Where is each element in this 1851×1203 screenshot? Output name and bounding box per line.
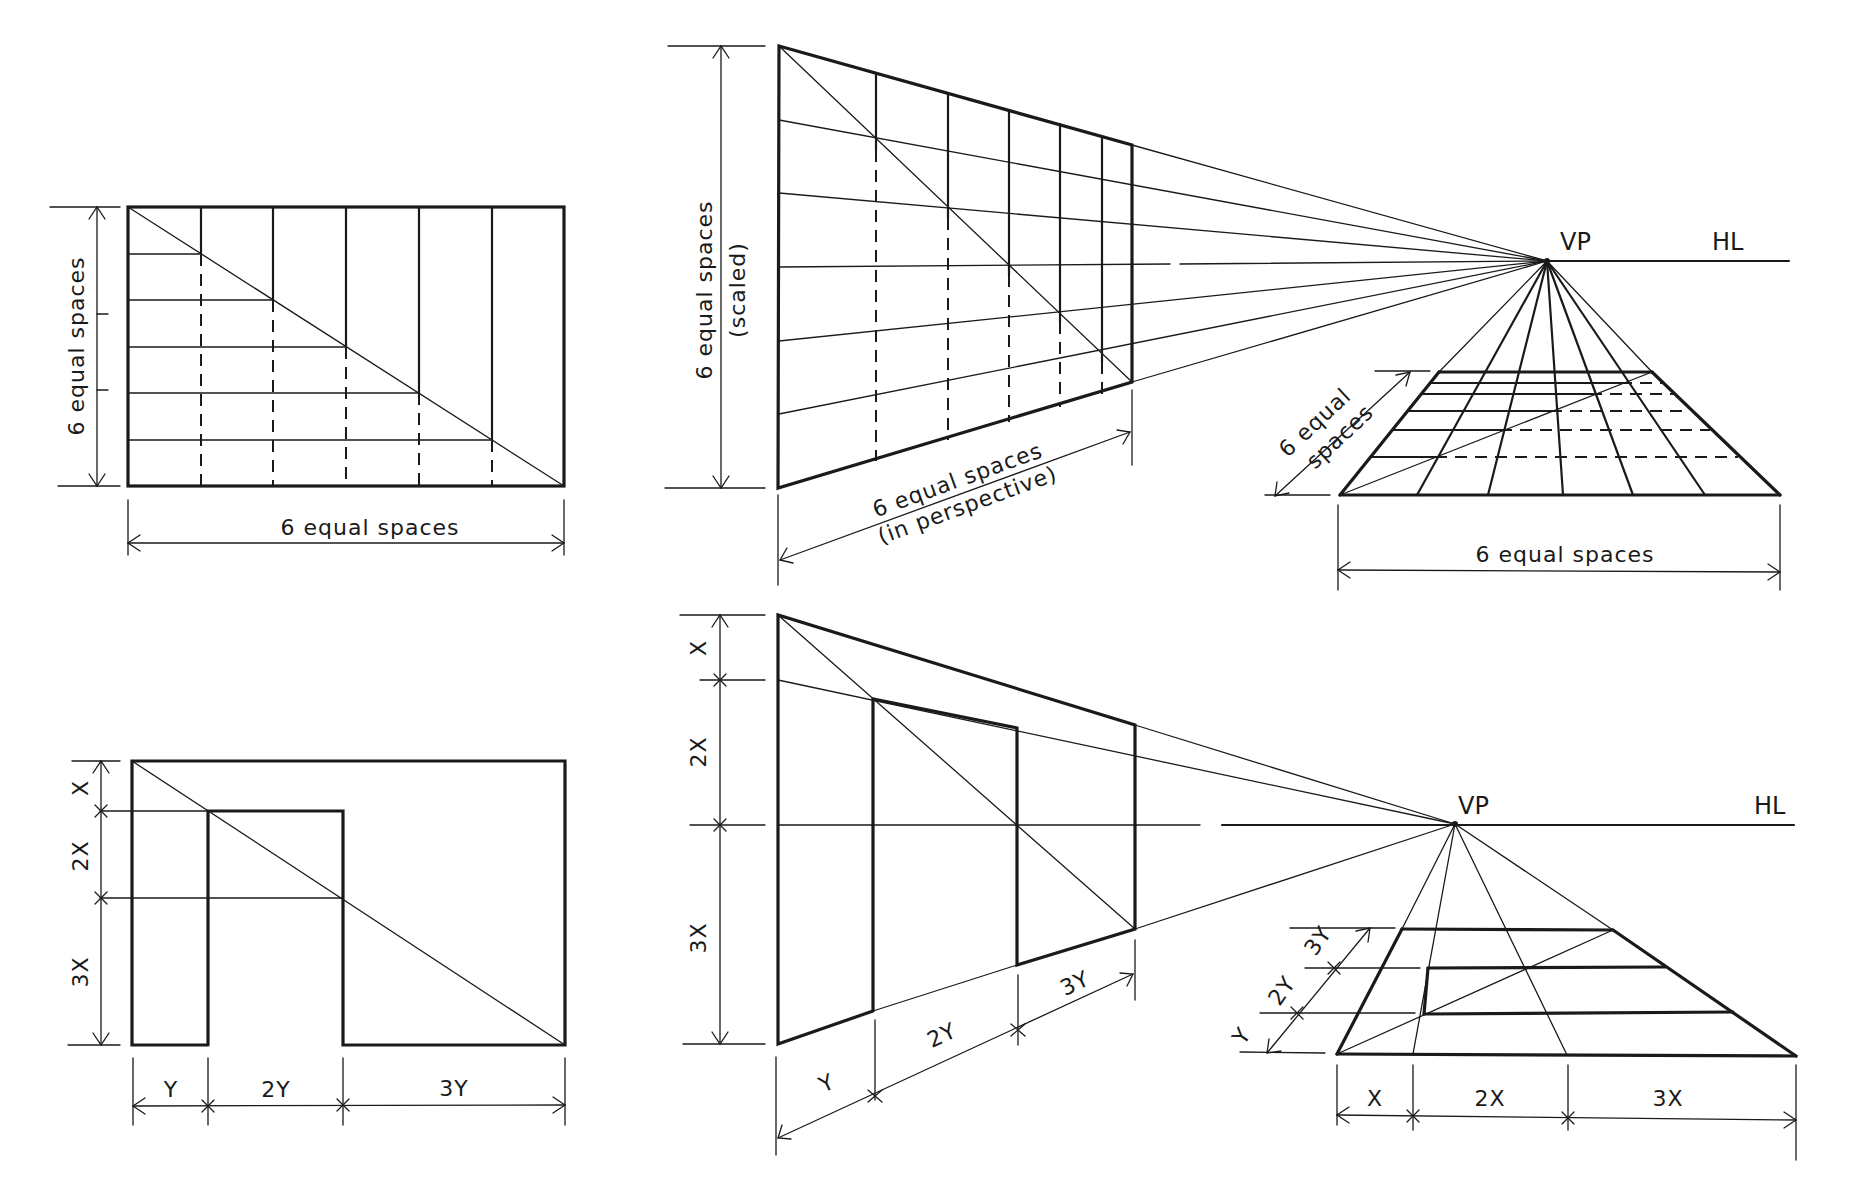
vp-label: VP	[1560, 228, 1591, 256]
elevation-grid-panel: 6 equal spaces 6 equal spaces	[50, 207, 564, 555]
height-label-2x: 2X	[68, 840, 93, 871]
elevation-door-panel: X 2X 3X Y 2Y 3Y	[68, 761, 565, 1125]
diagonal-line	[132, 761, 565, 1045]
width-label: 6 equal spaces	[1475, 542, 1654, 567]
height-label-line1: 6 equal spaces	[692, 200, 717, 379]
width-label-x: X	[1367, 1086, 1383, 1111]
height-label-3x: 3X	[68, 956, 93, 987]
perspective-wall-door-panel: X 2X 3X Y 2Y 3Y	[680, 615, 1455, 1155]
vp-label: VP	[1458, 792, 1489, 820]
depth-label-2y: 2Y	[923, 1018, 960, 1053]
width-label-3x: 3X	[1652, 1086, 1683, 1111]
width-label-3y: 3Y	[439, 1076, 468, 1101]
diagonal-line	[1340, 372, 1652, 495]
hl-label: HL	[1712, 228, 1744, 256]
height-label-3x: 3X	[686, 922, 711, 953]
width-label-2y: 2Y	[261, 1077, 290, 1102]
depth-label-y: Y	[1227, 1023, 1256, 1050]
height-label-2x: 2X	[686, 736, 711, 767]
perspective-diagram-sheet: 6 equal spaces 6 equal spaces 6 equal	[0, 0, 1851, 1203]
perspective-floor-door-panel: VP HL Y 2Y 3Y	[1222, 792, 1796, 1160]
diagonal-line	[778, 615, 1135, 929]
diagonal-line	[1337, 930, 1613, 1054]
width-label: 6 equal spaces	[280, 515, 459, 540]
depth-label-3y: 3Y	[1299, 921, 1336, 959]
hl-label: HL	[1754, 792, 1786, 820]
height-label: 6 equal spaces	[64, 256, 89, 435]
perspective-wall-grid-panel: 6 equal spaces (scaled) 6 equal spaces (…	[665, 46, 1547, 585]
height-label-line2: (scaled)	[725, 242, 750, 338]
width-label-y: Y	[163, 1077, 178, 1102]
depth-label-2y: 2Y	[1263, 971, 1300, 1009]
height-label-x: X	[68, 780, 93, 796]
depth-label-y: Y	[814, 1069, 839, 1098]
height-label-x: X	[686, 640, 711, 656]
width-label-2x: 2X	[1474, 1086, 1505, 1111]
